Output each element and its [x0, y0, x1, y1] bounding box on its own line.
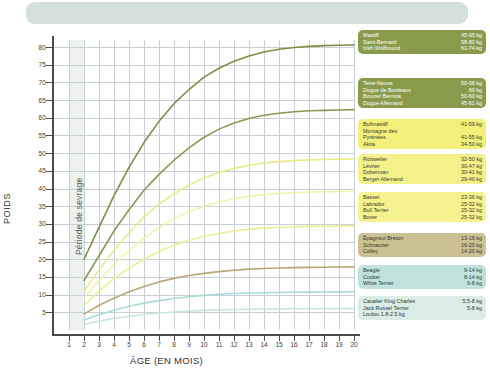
legend-breed-name: Rottweiler	[363, 156, 393, 163]
legend-box-large[interactable]: Bullmastiff41-59 kgMontagne desPyrénées4…	[358, 119, 486, 149]
legend-breed-weight: 6-8 kg	[467, 280, 482, 287]
legend-breed-weight: 45-61 kg	[461, 100, 482, 107]
legend-breed-name: Bull Terrier	[363, 207, 395, 214]
legend-breed-weight: 9-14 kg	[464, 267, 482, 274]
legend-breed-name: Colley	[363, 248, 384, 255]
header-bar-text	[26, 2, 468, 24]
legend-breed-name: White Terrier	[363, 280, 399, 287]
y-axis-label: 50	[6, 150, 46, 157]
legend-breed-name: Boxer	[363, 214, 383, 221]
y-axis-tick	[46, 100, 53, 101]
y-axis-label: 55	[6, 132, 46, 139]
y-axis-title: POIDS	[2, 193, 12, 224]
x-axis-label: 8	[166, 341, 182, 348]
legend-breed-name: Cavalier King Charles	[363, 298, 421, 305]
x-axis-label: 19	[331, 341, 347, 348]
legend-breed-weight: 61-74 kg	[461, 45, 482, 52]
legend-breed-weight: 8-14 kg	[464, 274, 482, 281]
legend-row: Bullmastiff41-59 kg	[363, 121, 482, 128]
y-axis-tick	[46, 189, 53, 190]
legend-breed-name: Épagneul Breton	[363, 235, 409, 242]
legend-breed-weight: 25-32 kg	[461, 207, 482, 214]
x-axis-label: 20	[346, 341, 362, 348]
y-axis-label: 45	[6, 167, 46, 174]
y-axis-tick	[46, 259, 53, 260]
legend-breed-name: Dogue Allemand	[363, 100, 409, 107]
legend-breed-weight: 25-32 kg	[461, 201, 482, 208]
y-axis-label: 80	[6, 44, 46, 51]
legend-breed-weight: 13-16 kg	[461, 235, 482, 242]
x-axis-label: 9	[181, 341, 197, 348]
x-axis-label: 10	[196, 341, 212, 348]
legend-row: Bouvier Bernois50-60 kg	[363, 93, 482, 100]
y-axis-tick	[46, 206, 53, 207]
legend-breed-name: Irish Wolfhound	[363, 45, 406, 52]
x-axis-label: 3	[91, 341, 107, 348]
legend-row: Cavalier King Charles5.5-8 kg	[363, 298, 482, 305]
legend-row: Schnauzer16-20 kg	[363, 242, 482, 249]
legend-row: Épagneul Breton13-16 kg	[363, 235, 482, 242]
chart-page: Période de sevrage 510152025303540455055…	[0, 0, 490, 376]
legend-breed-name: Mastiff	[363, 32, 385, 39]
legend-breed-weight: 50-68 kg	[461, 80, 482, 87]
plot-area: Période de sevrage	[54, 40, 354, 330]
x-axis-label: 16	[286, 341, 302, 348]
x-axis-title: ÂGE (EN MOIS)	[130, 355, 203, 366]
y-axis-label: 15	[6, 273, 46, 280]
legend-row: Boxer25-32 kg	[363, 214, 482, 221]
legend-breed-weight: 50-60 kg	[461, 93, 482, 100]
legend-breed-name: Bouvier Bernois	[363, 93, 407, 100]
x-axis-label: 17	[301, 341, 317, 348]
legend-row: Doberman30-41 kg	[363, 169, 482, 176]
legend-breed-name: Akita	[363, 141, 381, 148]
y-axis-tick	[46, 135, 53, 136]
legend-box-toy[interactable]: Cavalier King Charles5.5-8 kgJack Russel…	[358, 296, 486, 320]
legend-breed-name: Pyrénées	[363, 134, 392, 141]
x-axis-label: 18	[316, 341, 332, 348]
legend-breed-weight: 41-55 kg	[461, 134, 482, 141]
x-axis-label: 11	[211, 341, 227, 348]
legend-breed-weight: 45-95 kg	[461, 32, 482, 39]
legend-breed-weight: 34-50 kg	[461, 141, 482, 148]
legend-row: Jack Russel Terrier5-8 kg	[363, 305, 482, 312]
curve-medium-large	[84, 191, 354, 298]
legend-row: Labrador25-32 kg	[363, 201, 482, 208]
legend-box-giant[interactable]: Mastiff45-95 kgSaint-Bernard58-80 kgIris…	[358, 30, 486, 54]
y-axis-label: 60	[6, 114, 46, 121]
legend-breed-name: Bullmastiff	[363, 121, 394, 128]
x-axis-label: 13	[241, 341, 257, 348]
y-axis-tick	[46, 153, 53, 154]
x-axis-label: 12	[226, 341, 242, 348]
legend-box-small[interactable]: Beagle9-14 kgCocker8-14 kgWhite Terrier6…	[358, 265, 486, 289]
curve-layer	[54, 40, 354, 330]
legend-row: Beagle9-14 kg	[363, 267, 482, 274]
curve-small	[84, 292, 354, 320]
legend-box-medium-small[interactable]: Épagneul Breton13-16 kgSchnauzer16-20 kg…	[358, 233, 486, 257]
legend-row: Saint-Bernard58-80 kg	[363, 39, 482, 46]
legend-breed-name: Cocker	[363, 274, 386, 281]
legend-breed-weight: 14-20 kg	[461, 248, 482, 255]
x-axis-label: 14	[256, 341, 272, 348]
legend-breed-weight: 23-36 kg	[461, 194, 482, 201]
growth-chart: Période de sevrage 510152025303540455055…	[0, 28, 490, 376]
y-axis-tick	[46, 295, 53, 296]
y-axis-tick	[46, 312, 53, 313]
y-axis-label: 75	[6, 61, 46, 68]
y-axis-tick	[46, 242, 53, 243]
legend-breed-name: Berger Allemand	[363, 176, 409, 183]
legend-row: Loulou 1.8-2.5 kg	[363, 311, 482, 318]
y-axis-tick	[46, 224, 53, 225]
legend-box-medium[interactable]: Basset23-36 kgLabrador25-32 kgBull Terri…	[358, 192, 486, 222]
x-axis-label: 5	[121, 341, 137, 348]
legend-box-very-large[interactable]: Terre-Neuve50-68 kgDogue de Bordeaux60 k…	[358, 78, 486, 108]
x-axis-label: 6	[136, 341, 152, 348]
legend-breed-name: Doberman	[363, 169, 394, 176]
legend-breed-name: Loulou 1.8-2.5 kg	[363, 311, 411, 318]
y-axis-tick	[46, 47, 53, 48]
y-axis-label: 10	[6, 291, 46, 298]
legend-row: Dogue Allemand45-61 kg	[363, 100, 482, 107]
legend-box-medium-large[interactable]: Rottweiler32-50 kgLévrier30-47 kgDoberma…	[358, 154, 486, 184]
legend-breed-name: Jack Russel Terrier	[363, 305, 415, 312]
legend-row: Pyrénées41-55 kg	[363, 134, 482, 141]
legend-row: Dogue de Bordeaux60 kg	[363, 87, 482, 94]
